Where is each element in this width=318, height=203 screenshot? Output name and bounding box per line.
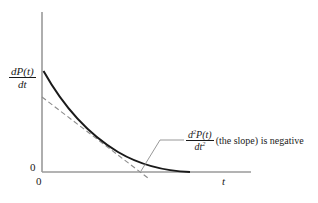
y-axis-label-denominator: dt [9,78,36,90]
x-axis-label: t [222,176,225,187]
second-derivative-fraction: d2P(t) dt2 [186,130,214,152]
y-origin-tick-label: 0 [30,162,36,173]
y-axis-label-numerator: dP(t) [9,66,36,78]
annotation-numerator-rest: P(t) [196,129,212,140]
figure-container: dP(t) dt 0 0 t d2P(t) dt2 (the slope) is… [0,0,318,203]
y-axis-label: dP(t) dt [9,66,36,90]
decay-curve [44,71,191,172]
x-origin-tick-label: 0 [36,176,42,187]
tangent-line [42,97,148,178]
annotation-leader-line [141,140,184,171]
annotation-denominator-d: dt [194,141,202,152]
second-derivative-annotation: d2P(t) dt2 (the slope) is negative [186,130,304,152]
annotation-text: (the slope) is negative [216,136,304,146]
annotation-denominator-exponent: 2 [202,140,205,147]
plot-canvas [0,0,318,203]
